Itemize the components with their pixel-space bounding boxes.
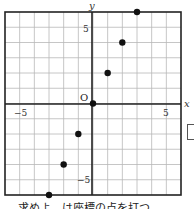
y-tick-neg5: −5 (77, 175, 91, 185)
data-point (90, 100, 96, 106)
x-tick-pos5: 5 (163, 108, 169, 118)
coordinate-plane: y x O −5 5 5 −5 (0, 0, 194, 209)
data-point (75, 131, 81, 137)
data-point (134, 9, 140, 15)
data-point (104, 70, 110, 76)
data-point (119, 39, 125, 45)
answer-bracket (187, 124, 194, 140)
x-axis-label: x (184, 98, 190, 109)
y-tick-pos5: 5 (83, 24, 89, 34)
data-point (60, 161, 66, 167)
y-axis-label: y (88, 0, 95, 11)
caption-text: 求めよ は座標の点を打つ (18, 199, 188, 209)
data-point (46, 192, 52, 198)
origin-label: O (80, 92, 88, 103)
x-tick-neg5: −5 (14, 108, 28, 118)
